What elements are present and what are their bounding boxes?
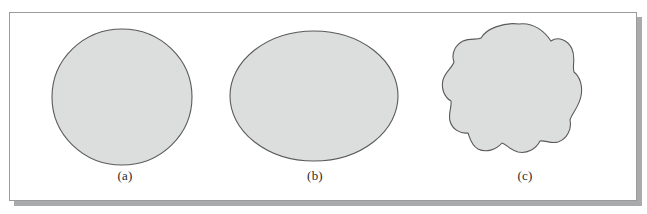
shape-label-c: (c) (495, 168, 555, 184)
figure-root: (a) (b) (c) (0, 0, 647, 214)
shape-ellipse-b (230, 31, 398, 161)
shape-irregular-blob-c (442, 24, 581, 153)
shape-circle-a (52, 29, 192, 165)
shape-label-a: (a) (95, 168, 155, 184)
shape-label-b: (b) (285, 168, 345, 184)
